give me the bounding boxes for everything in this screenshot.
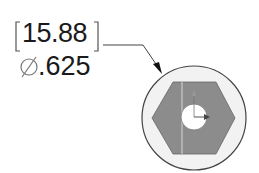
dimension-secondary-value[interactable]: .625 — [38, 53, 91, 80]
leader-arrowhead — [153, 62, 162, 74]
leader-line — [103, 45, 158, 67]
diameter-icon — [21, 57, 37, 77]
dimension-primary-value[interactable]: 15.88 — [22, 20, 87, 47]
